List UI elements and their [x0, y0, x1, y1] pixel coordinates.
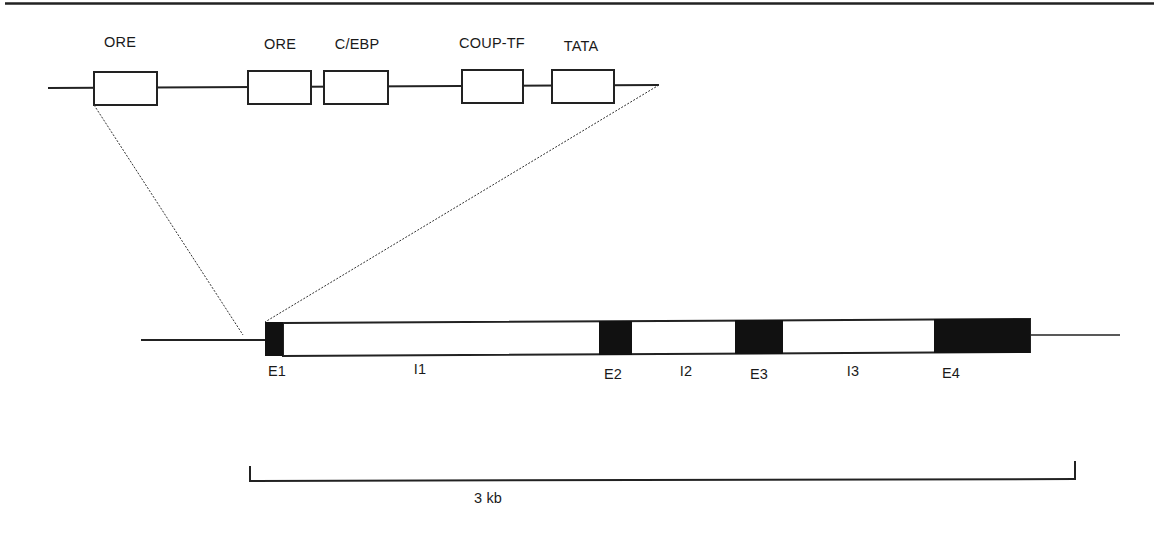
cebp-box	[324, 71, 388, 104]
label-e3: E3	[750, 366, 768, 382]
label-i3: I3	[847, 363, 860, 379]
label-cebp: C/EBP	[335, 36, 380, 52]
label-e1: E1	[268, 363, 286, 379]
scale-bar-line	[250, 479, 1075, 481]
label-e2: E2	[604, 366, 622, 382]
exon-e4	[934, 319, 1030, 353]
label-scale-3kb: 3 kb	[474, 490, 502, 506]
ore-box-2	[248, 71, 311, 104]
exon-e2	[599, 321, 632, 355]
label-tata: TATA	[564, 38, 599, 54]
gene-structure	[141, 319, 1120, 356]
label-coup-tf: COUP-TF	[459, 35, 525, 51]
zoom-connector-right	[265, 85, 659, 322]
label-i2: I2	[680, 363, 693, 379]
label-ore-2: ORE	[264, 36, 296, 52]
scale-bar	[250, 461, 1075, 482]
intron-body-outline	[283, 319, 1030, 356]
label-e4: E4	[942, 365, 960, 381]
tata-box	[552, 70, 614, 103]
promoter-inset	[48, 70, 659, 105]
label-i1: I1	[414, 361, 427, 377]
gene-structure-figure: ORE ORE C/EBP COUP-TF TATA E1 I1 E2 I2 E…	[0, 0, 1159, 536]
zoom-connector-left	[94, 105, 243, 335]
diagram-canvas	[0, 0, 1159, 536]
exon-e3	[735, 320, 783, 354]
coup-tf-box	[462, 70, 523, 103]
ore-box-1	[94, 72, 157, 105]
exon-e1	[265, 322, 283, 356]
label-ore-1: ORE	[104, 34, 136, 50]
